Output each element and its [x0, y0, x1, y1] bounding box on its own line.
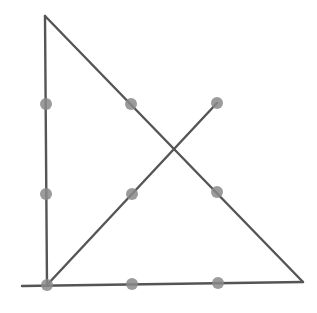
grid-dot-r0-c0: [40, 98, 52, 110]
grid-dot-r2-c2: [212, 277, 224, 289]
grid-dot-r1-c1: [126, 188, 138, 200]
grid-dot-r0-c2: [211, 97, 223, 109]
nine-dots-diagram: [0, 0, 317, 313]
grid-dot-r1-c2: [211, 186, 223, 198]
baseline-line: [22, 282, 303, 286]
solution-lines: [22, 16, 303, 286]
grid-dot-r0-c1: [125, 98, 137, 110]
grid-dot-r2-c0: [41, 279, 53, 291]
grid-dot-r2-c1: [126, 278, 138, 290]
left-vertical-line: [45, 16, 47, 286]
grid-dot-r1-c0: [40, 188, 52, 200]
